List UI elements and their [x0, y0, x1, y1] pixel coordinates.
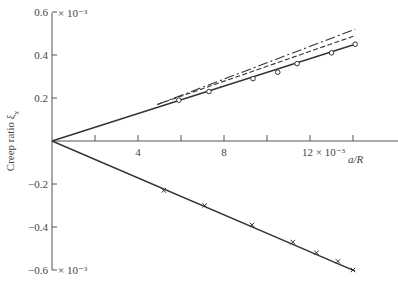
x-tick-label: 12 × 10⁻³ [302, 146, 346, 158]
x-tick-label: 4 [135, 146, 141, 158]
circle-marker [295, 61, 300, 66]
y-tick-label: 0.6 [34, 6, 48, 18]
circle-marker [207, 89, 212, 94]
y-bottom-multiplier: × 10⁻³ [58, 264, 88, 276]
creep-ratio-chart: 0.60.40.2−0.2−0.4−0.6 4812 × 10⁻³ × 10⁻³… [0, 0, 398, 284]
circle-marker [177, 98, 182, 103]
y-tick-label: −0.2 [28, 178, 48, 190]
y-axis-label: Creep ratio ξx [4, 110, 21, 171]
series-line [157, 29, 355, 104]
y-tick-label: 0.4 [34, 49, 48, 61]
y-top-multiplier: × 10⁻³ [58, 7, 88, 19]
circle-marker [329, 51, 334, 56]
series-line [52, 44, 355, 141]
x-tick-label: 8 [221, 146, 227, 158]
x-ticks: 4812 × 10⁻³ [95, 135, 353, 158]
y-tick-label: 0.2 [34, 92, 48, 104]
circle-marker [251, 76, 256, 81]
circle-marker [353, 42, 358, 47]
series-line [157, 36, 355, 105]
circle-marker [275, 70, 280, 75]
x-axis-label: a/R [348, 153, 364, 165]
y-tick-label: −0.6 [28, 264, 48, 276]
y-tick-label: −0.4 [28, 221, 48, 233]
